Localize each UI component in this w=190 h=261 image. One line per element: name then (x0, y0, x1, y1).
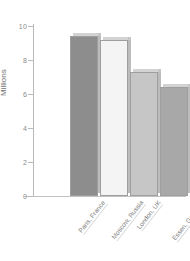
y-tick-label: 8 (7, 57, 27, 64)
plot-area (34, 26, 184, 196)
bar-item[interactable] (130, 26, 158, 196)
y-tick-label: 4 (7, 125, 27, 132)
bar-face (100, 40, 128, 196)
bar-column (70, 36, 98, 196)
x-axis-label: Essen, Germany (170, 199, 190, 243)
bar-column (130, 72, 158, 196)
bar-column (160, 87, 188, 196)
x-axis-labels: Paris, FranceMoscow, RussiaLondon, UKEss… (36, 199, 188, 259)
y-tick-mark (28, 26, 33, 27)
y-tick-label: 0 (7, 193, 27, 200)
y-tick-mark (28, 94, 33, 95)
x-axis-line (24, 196, 186, 197)
y-tick-label: 2 (7, 159, 27, 166)
bar-series (70, 26, 190, 196)
bar-face (160, 87, 188, 196)
y-tick-mark (28, 162, 33, 163)
bar-item[interactable] (160, 26, 188, 196)
y-tick-label: 6 (7, 91, 27, 98)
bar-item[interactable] (100, 26, 128, 196)
y-tick-mark (28, 128, 33, 129)
bar-item[interactable] (70, 26, 98, 196)
bar-face (70, 36, 98, 196)
bar-column (100, 40, 128, 196)
y-tick-mark (28, 60, 33, 61)
y-tick-label: 10 (7, 23, 27, 30)
bar-chart: Millions 0246810 Paris, FranceMoscow, Ru… (0, 0, 190, 261)
y-tick-mark (28, 196, 33, 197)
bar-face (130, 72, 158, 196)
x-axis-label: Paris, France (77, 199, 108, 235)
